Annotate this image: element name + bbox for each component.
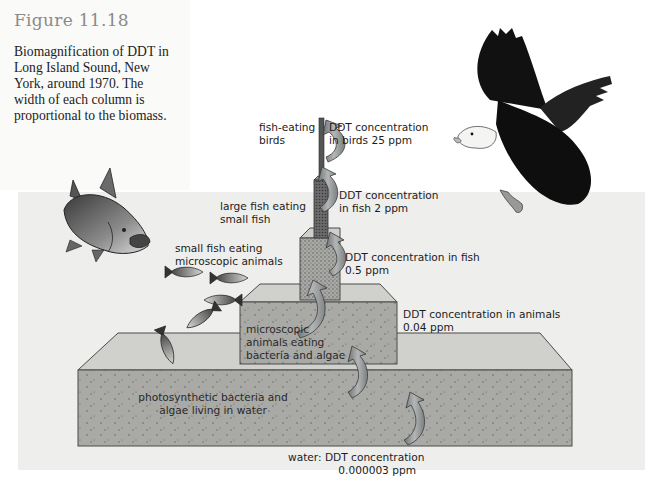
large-fish-organism-label: large fish eating small fish: [220, 200, 306, 226]
microscopic-animals-concentration-label: DDT concentration in animals 0.04 ppm: [403, 308, 560, 334]
large-fish-concentration-label: DDT concentration in fish 2 ppm: [339, 189, 439, 215]
microscopic-animals-organism-label: microscopic animals eating bacteria and …: [246, 323, 345, 362]
large-fish-icon: [64, 168, 150, 262]
birds-concentration-label: DDT concentration in birds 25 ppm: [329, 121, 429, 147]
eagle-icon: [454, 28, 612, 213]
bacteria-algae-organism-label: photosynthetic bacteria and algae living…: [133, 391, 293, 417]
small-fish-concentration-label: DDT concentration in fish 0.5 ppm: [345, 251, 480, 277]
birds-organism-label: fish-eating birds: [259, 121, 315, 147]
water-concentration-label: water: DDT concentration 0.000003 ppm: [288, 451, 416, 477]
biomagnification-diagram: [0, 0, 658, 485]
small-fish-organism-label: small fish eating microscopic animals: [175, 242, 283, 268]
